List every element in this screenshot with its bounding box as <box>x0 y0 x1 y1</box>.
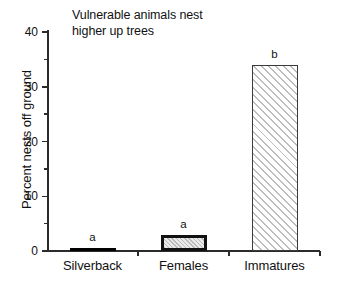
y-tick-label: 20 <box>25 135 38 149</box>
plot-area: aab <box>47 32 320 251</box>
x-category-label-females: Females <box>159 258 208 273</box>
bar-annotation-females: a <box>180 218 186 230</box>
bar-females <box>161 235 207 251</box>
bar-annotation-silverback: a <box>89 231 95 243</box>
y-tick-label: 40 <box>25 25 38 39</box>
y-tick-label: 10 <box>25 189 38 203</box>
x-tick-mark <box>228 251 230 256</box>
bar-silverback <box>70 248 116 251</box>
x-category-label-silverback: Silverback <box>63 258 122 273</box>
bar-annotation-immatures: b <box>271 48 277 60</box>
x-category-label-immatures: Immatures <box>244 258 305 273</box>
y-tick-label: 30 <box>25 80 38 94</box>
y-tick-label: 0 <box>31 244 38 258</box>
x-tick-mark <box>137 251 139 256</box>
bar-immatures <box>252 65 298 251</box>
x-tick-mark <box>319 251 321 256</box>
chart-figure: Vulnerable animals nest higher up trees … <box>0 0 340 285</box>
